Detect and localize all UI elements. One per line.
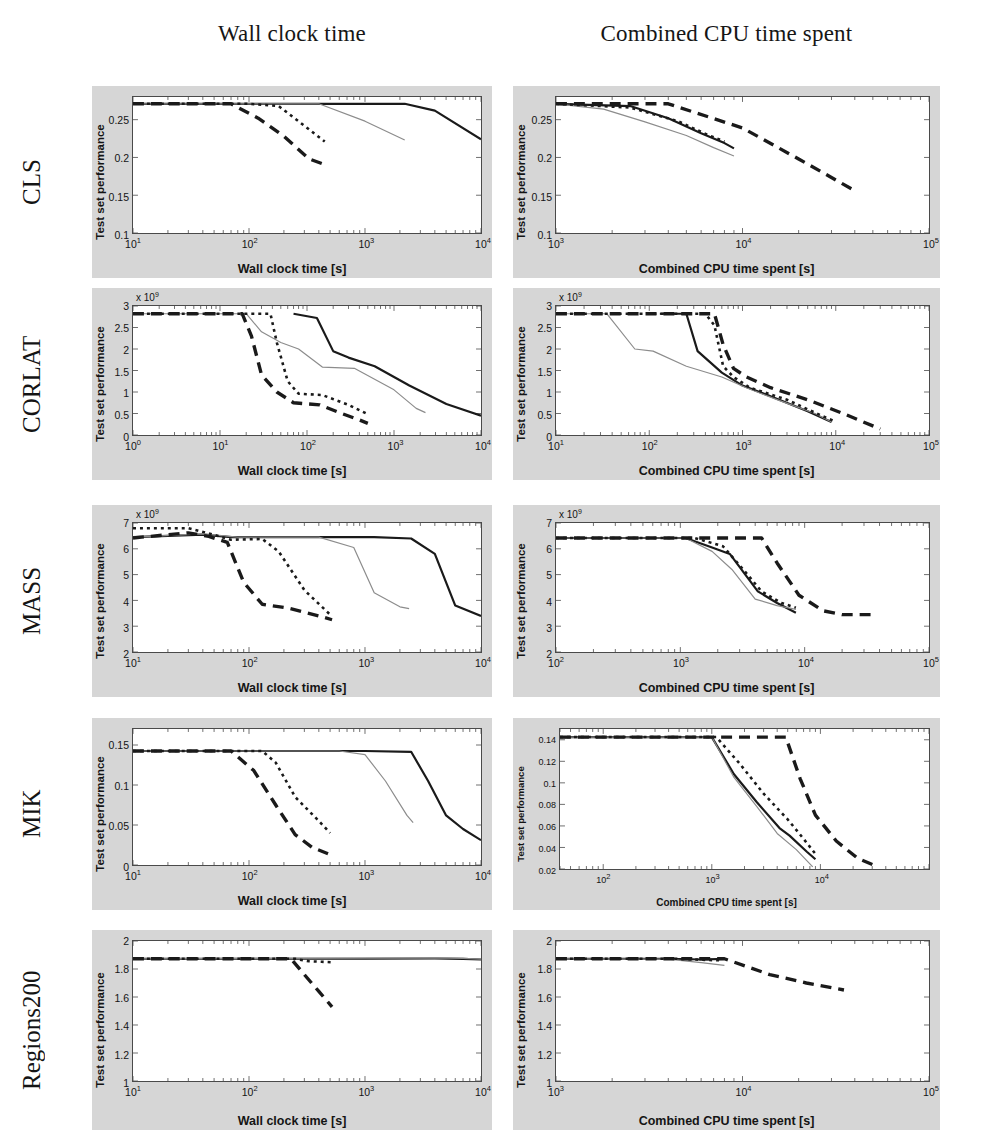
y-tick-label: 0.12 <box>538 757 556 767</box>
y-tick-label: 2 <box>546 935 552 947</box>
x-tick-label: 102 <box>300 438 316 452</box>
series-line-d-smac64 <box>133 751 328 854</box>
y-tick-label: 2 <box>546 344 552 356</box>
series-line-d-smac1 <box>660 314 832 422</box>
x-tick-label: 104 <box>815 872 829 885</box>
y-tick-label: 5 <box>546 569 552 581</box>
series-line-d-smac64 <box>556 104 855 191</box>
x-tick-label: 104 <box>475 438 491 452</box>
y-tick-label: 0.05 <box>109 820 129 832</box>
y-tick-label: 1.5 <box>114 366 129 378</box>
y-tick-label: 4 <box>123 596 129 608</box>
y-axis-label: Test set performance <box>94 124 106 239</box>
plot-panel-corlat-cpu: d-SMAC(1)d-SMAC(4)d-SMAC(16)d-SMAC(64)x … <box>513 288 940 480</box>
plot-area-mass-cpu <box>556 523 929 652</box>
y-tick-label: 0.06 <box>538 822 556 832</box>
y-tick-label: 0.1 <box>114 780 129 792</box>
x-tick-label: 104 <box>736 236 752 250</box>
y-tick-label: 6 <box>546 543 552 555</box>
y-tick-label: 0.15 <box>109 191 129 203</box>
y-tick-label: 0.14 <box>538 735 556 745</box>
series-line-d-smac64 <box>556 314 880 429</box>
series-line-d-smac16 <box>556 104 724 142</box>
x-tick-label: 102 <box>242 655 258 669</box>
series-line-d-smac4 <box>560 737 813 867</box>
series-line-d-smac1 <box>133 104 481 140</box>
plot-area-corlat-cpu <box>556 306 929 435</box>
y-tick-label: 0.25 <box>109 114 129 126</box>
plot-area-mass-wall <box>133 523 481 652</box>
y-tick-label: 7 <box>123 517 129 529</box>
series-line-d-smac64 <box>560 737 878 867</box>
plot-area-corlat-wall <box>133 306 481 435</box>
series-line-d-smac4 <box>556 538 796 609</box>
axes-mass-wall: 234567101102103104 <box>132 522 482 653</box>
series-line-d-smac64 <box>133 104 328 166</box>
x-axis-label: Wall clock time [s] <box>92 681 492 695</box>
y-tick-label: 0.5 <box>114 409 129 421</box>
y-axis-exponent: x 109 <box>559 291 582 303</box>
y-tick-label: 0.1 <box>543 779 556 789</box>
series-line-d-smac4 <box>133 104 405 140</box>
plot-panel-cls-cpu: d-SMAC(1)d-SMAC(4)d-SMAC(16)d-SMAC(64)Te… <box>513 86 940 278</box>
y-tick-label: 1.2 <box>537 1049 552 1061</box>
row-label-mik: MIK <box>0 718 64 910</box>
y-axis-label: Test set performance <box>515 972 527 1087</box>
y-tick-label: 7 <box>546 517 552 529</box>
x-tick-label: 102 <box>242 236 258 250</box>
y-tick-label: 0.5 <box>537 409 552 421</box>
plot-area-cls-cpu <box>556 97 929 233</box>
axes-mik-cpu: 0.020.040.060.080.10.120.14102103104 <box>559 728 930 870</box>
series-line-d-smac64 <box>556 538 872 615</box>
x-tick-label: 103 <box>548 236 564 250</box>
x-tick-label: 104 <box>798 655 814 669</box>
row-label-corlat: CORLAT <box>0 288 64 480</box>
y-tick-label: 1.8 <box>537 963 552 975</box>
x-tick-label: 103 <box>736 438 752 452</box>
x-axis-label: Combined CPU time spent [s] <box>513 262 940 276</box>
y-tick-label: 1.5 <box>537 366 552 378</box>
x-axis-label: Combined CPU time spent [s] <box>513 681 940 695</box>
axes-corlat-cpu: 00.511.522.53101102103104105 <box>555 305 930 436</box>
y-axis-label: Test set performance <box>515 766 526 861</box>
x-tick-label: 103 <box>358 655 374 669</box>
y-axis-label: Test set performance <box>94 543 106 658</box>
x-axis-label: Wall clock time [s] <box>92 464 492 478</box>
x-tick-label: 102 <box>548 655 564 669</box>
x-axis-label: Wall clock time [s] <box>92 262 492 276</box>
x-tick-label: 105 <box>923 1084 939 1098</box>
y-axis-label: Test set performance <box>94 972 106 1087</box>
plot-panel-corlat-wall: d-SMAC(1)d-SMAC(4)d-SMAC(16)d-SMAC(64)x … <box>92 288 492 480</box>
column-header-combined-cpu-time: Combined CPU time spent <box>513 21 940 47</box>
axes-regions200-wall: 11.21.41.61.82101102103104 <box>132 940 482 1082</box>
y-axis-label: Test set performance <box>515 543 527 658</box>
series-line-d-smac4 <box>133 314 425 413</box>
x-axis-label: Wall clock time [s] <box>92 894 492 908</box>
x-tick-label: 104 <box>829 438 845 452</box>
series-line-d-smac1 <box>556 538 796 613</box>
y-tick-label: 1 <box>546 387 552 399</box>
series-line-d-smac64 <box>133 959 332 1007</box>
y-tick-label: 3 <box>123 300 129 312</box>
series-line-d-smac1 <box>560 737 815 859</box>
x-tick-label: 104 <box>736 1084 752 1098</box>
y-tick-label: 0.15 <box>532 191 552 203</box>
y-tick-label: 1.4 <box>114 1020 129 1032</box>
axes-cls-cpu: 0.10.150.20.25103104105 <box>555 96 930 234</box>
y-tick-label: 0.02 <box>538 866 556 876</box>
y-tick-label: 1.8 <box>114 963 129 975</box>
plot-panel-cls-wall: d-SMAC(1)d-SMAC(4)d-SMAC(16)d-SMAC(64)Te… <box>92 86 492 278</box>
y-axis-label: Test set performance <box>515 326 527 441</box>
axes-regions200-cpu: 11.21.41.61.82103104105 <box>555 940 930 1082</box>
series-line-d-smac64 <box>133 314 368 424</box>
x-tick-label: 104 <box>475 236 491 250</box>
y-tick-label: 1.6 <box>114 992 129 1004</box>
y-tick-label: 2.5 <box>114 322 129 334</box>
row-label-mass: MASS <box>0 505 64 697</box>
axes-cls-wall: 0.10.150.20.25101102103104 <box>132 96 482 234</box>
axes-mass-cpu: 234567102103104105 <box>555 522 930 653</box>
y-tick-label: 3 <box>546 622 552 634</box>
series-line-d-smac1 <box>294 314 481 416</box>
x-tick-label: 101 <box>125 236 141 250</box>
y-tick-label: 2.5 <box>537 322 552 334</box>
